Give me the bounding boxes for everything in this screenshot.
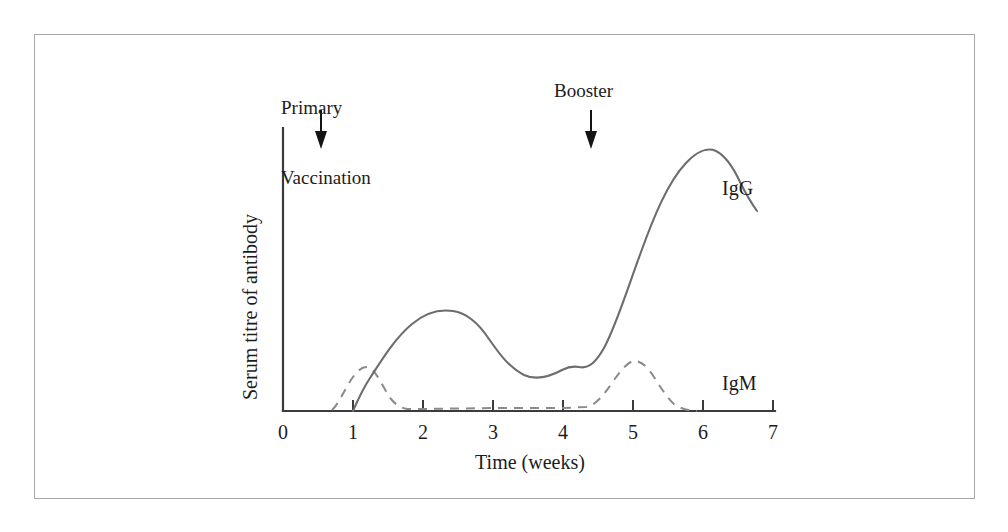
x-tick-label-4: 4 [545, 420, 581, 444]
booster-arrow [585, 110, 597, 149]
x-tick-label-3: 3 [475, 420, 511, 444]
x-axis-title: Time (weeks) [430, 450, 630, 474]
booster-label: Booster [554, 79, 613, 102]
x-tick-label-1: 1 [335, 420, 371, 444]
x-tick-label-0: 0 [265, 420, 301, 444]
series-curve-igg [353, 150, 757, 411]
x-tick-label-2: 2 [405, 420, 441, 444]
x-tick-label-7: 7 [755, 420, 791, 444]
primary-vaccination-label-line1: Primary [281, 96, 371, 119]
x-tick-label-6: 6 [685, 420, 721, 444]
y-axis-title: Serum titre of antibody [238, 214, 262, 400]
figure-root: Primary Vaccination Booster IgG IgM Seru… [0, 0, 1008, 532]
series-label-igm: IgM [722, 371, 756, 395]
primary-vaccination-label-line2: Vaccination [281, 166, 371, 189]
series-label-igg: IgG [722, 176, 753, 200]
x-tick-label-5: 5 [615, 420, 651, 444]
primary-vaccination-label: Primary Vaccination [281, 50, 371, 235]
